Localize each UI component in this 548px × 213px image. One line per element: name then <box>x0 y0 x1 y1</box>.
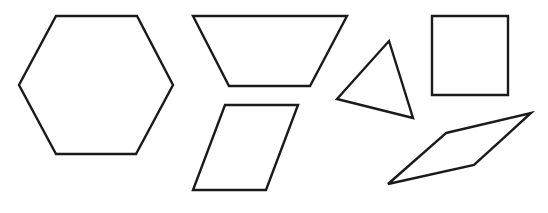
trapezoid-shape <box>193 16 347 86</box>
rhombus-shape <box>388 113 531 184</box>
triangle-shape <box>337 41 413 118</box>
parallelogram-shape <box>193 105 298 190</box>
hexagon-shape <box>19 16 173 154</box>
square-shape <box>432 16 508 95</box>
shapes-diagram <box>0 0 548 213</box>
